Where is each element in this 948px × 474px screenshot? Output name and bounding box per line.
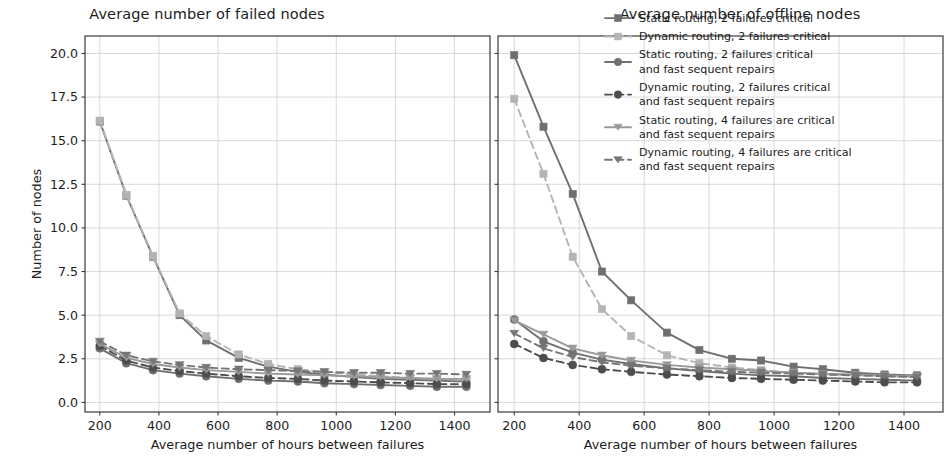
- data-point-marker: [569, 190, 576, 197]
- chart-panel-failed-nodes: Average number of failed nodes 200400600…: [0, 0, 500, 474]
- data-point-marker: [615, 15, 622, 22]
- legend-label: and fast sequent repairs: [639, 160, 775, 173]
- x-tick-label: 400: [567, 418, 591, 433]
- legend-entry[interactable]: Static routing, 2 failures criticaland f…: [605, 48, 813, 75]
- series-line: [100, 121, 467, 381]
- data-point-marker: [663, 352, 670, 359]
- data-point-marker: [758, 357, 765, 364]
- y-tick-label: 17.5: [50, 89, 78, 104]
- x-axis-label: Average number of hours between failures: [151, 437, 425, 452]
- y-tick-label: 2.5: [58, 351, 78, 366]
- axis-titles: Average number of hours between failures: [584, 437, 858, 452]
- legend-entry[interactable]: Dynamic routing, 4 failures are critical…: [605, 146, 852, 173]
- x-tick-label: 1200: [379, 418, 411, 433]
- data-point-marker: [265, 360, 272, 367]
- data-point-marker: [540, 170, 547, 177]
- data-point-marker: [614, 91, 622, 99]
- x-tick-label: 800: [265, 418, 289, 433]
- data-point-marker: [511, 95, 518, 102]
- chart-panel-offline-nodes: Average number of offline nodes 20040060…: [443, 0, 943, 474]
- data-point-marker: [598, 365, 606, 373]
- data-point-marker: [728, 355, 735, 362]
- plot-frame: [85, 36, 490, 412]
- y-tick-label: 7.5: [58, 264, 78, 279]
- x-tick-label: 800: [697, 418, 721, 433]
- series-0: [96, 118, 470, 385]
- legend-entry[interactable]: Static routing, 4 failures are criticala…: [605, 114, 835, 141]
- data-point-marker: [96, 117, 103, 124]
- legend-label: Dynamic routing, 4 failures are critical: [639, 146, 852, 159]
- x-tick-label: 600: [206, 418, 230, 433]
- legend-entry[interactable]: Dynamic routing, 2 failures criticaland …: [605, 81, 830, 108]
- grid-lines: [85, 36, 490, 412]
- legend-label: Dynamic routing, 2 failures critical: [639, 81, 830, 94]
- x-tick-label: 1000: [320, 418, 352, 433]
- data-point-marker: [149, 252, 156, 259]
- data-point-marker: [614, 58, 622, 66]
- x-tick-label: 1200: [823, 418, 855, 433]
- data-point-marker: [615, 33, 622, 40]
- plot-svg-left: 2004006008001000120014000.02.55.07.510.0…: [0, 0, 500, 474]
- x-axis-label: Average number of hours between failures: [584, 437, 858, 452]
- data-point-marker: [123, 191, 130, 198]
- data-point-marker: [598, 305, 605, 312]
- data-point-marker: [203, 333, 210, 340]
- data-point-marker: [569, 253, 576, 260]
- legend-label: Static routing, 4 failures are critical: [639, 114, 835, 127]
- data-point-marker: [628, 333, 635, 340]
- series-1: [96, 117, 470, 383]
- legend-entry[interactable]: Dynamic routing, 2 failures critical: [605, 30, 830, 43]
- series-group: [95, 117, 471, 391]
- axes-spines: [85, 36, 490, 412]
- y-axis-label: Number of nodes: [29, 168, 44, 279]
- x-tick-label: 200: [88, 418, 112, 433]
- data-point-marker: [696, 346, 703, 353]
- legend-label: and fast sequent repairs: [639, 128, 775, 141]
- data-point-marker: [628, 297, 635, 304]
- legend-label: and fast sequent repairs: [639, 95, 775, 108]
- plot-svg-right: 200400600800100012001400Average number o…: [443, 0, 943, 474]
- y-tick-label: 0.0: [58, 395, 78, 410]
- series-line: [100, 121, 467, 380]
- y-tick-label: 10.0: [50, 220, 78, 235]
- x-tick-label: 1400: [888, 418, 920, 433]
- data-point-marker: [511, 52, 518, 59]
- y-tick-label: 15.0: [50, 133, 78, 148]
- legend-label: Dynamic routing, 2 failures critical: [639, 30, 830, 43]
- data-point-marker: [569, 361, 577, 369]
- legend-label: and fast sequent repairs: [639, 63, 775, 76]
- data-point-marker: [539, 354, 547, 362]
- legend-label: Static routing, 2 failures critical: [639, 48, 813, 61]
- data-point-marker: [598, 268, 605, 275]
- x-tick-label: 1000: [758, 418, 790, 433]
- x-tick-label: 600: [632, 418, 656, 433]
- data-point-marker: [510, 340, 518, 348]
- data-point-marker: [539, 337, 547, 345]
- y-tick-label: 20.0: [50, 46, 78, 61]
- data-point-marker: [663, 329, 670, 336]
- x-tick-label: 400: [147, 418, 171, 433]
- y-tick-label: 12.5: [50, 177, 78, 192]
- legend-label: Static routing, 2 failures critical: [639, 12, 813, 25]
- axis-titles: Average number of hours between failures…: [29, 168, 425, 452]
- y-tick-label: 5.0: [58, 308, 78, 323]
- legend: Static routing, 2 failures criticalDynam…: [605, 12, 852, 174]
- legend-entry[interactable]: Static routing, 2 failures critical: [605, 12, 813, 25]
- x-tick-label: 200: [502, 418, 526, 433]
- data-point-marker: [540, 123, 547, 130]
- data-point-marker: [235, 351, 242, 358]
- data-point-marker: [176, 310, 183, 317]
